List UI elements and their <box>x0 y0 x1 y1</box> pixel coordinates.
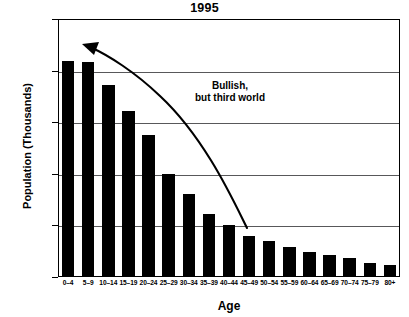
annotation-line-2: but third world <box>166 92 294 104</box>
bar-60-64 <box>303 252 315 277</box>
bar-5-9 <box>82 62 94 277</box>
chart-title: 1995 <box>0 1 409 15</box>
bar-55-59 <box>283 247 295 277</box>
y-axis-title: Population (Thousands) <box>21 46 33 246</box>
x-tick-label-80-: 80+ <box>377 279 403 286</box>
bar-80- <box>384 265 396 277</box>
y-tick-mark-0 <box>52 277 58 278</box>
bar-series <box>58 19 400 277</box>
bar-30-34 <box>183 194 195 277</box>
x-axis-ticks: 0–45–910–1415–1920–2425–2930–3435–3940–4… <box>58 279 400 295</box>
bar-10-14 <box>102 85 114 277</box>
bar-75-79 <box>364 263 376 277</box>
x-axis-title: Age <box>58 299 400 313</box>
bar-40-44 <box>223 225 235 277</box>
bar-25-29 <box>162 174 174 277</box>
bar-45-49 <box>243 236 255 277</box>
bar-65-69 <box>323 255 335 277</box>
annotation-bullish-note: Bullish, but third world <box>166 80 294 104</box>
bar-0-4 <box>62 61 74 277</box>
bar-50-54 <box>263 241 275 277</box>
bar-20-24 <box>142 135 154 277</box>
bar-35-39 <box>203 214 215 277</box>
bar-70-74 <box>343 258 355 277</box>
population-pyramid-bar-chart: 1995 Population (Thousands) Age 05001,00… <box>0 0 409 317</box>
bar-15-19 <box>122 111 134 277</box>
annotation-line-1: Bullish, <box>212 80 248 91</box>
